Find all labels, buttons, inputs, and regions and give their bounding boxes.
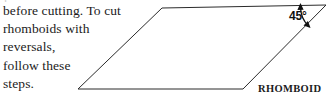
rhomboid-figure: 45° RHOMBOID [0,0,329,104]
figure-page: partial line above before cutting. To cu… [0,0,329,104]
shape-name-label: RHOMBOID [258,83,321,94]
angle-label: 45° [289,9,307,23]
